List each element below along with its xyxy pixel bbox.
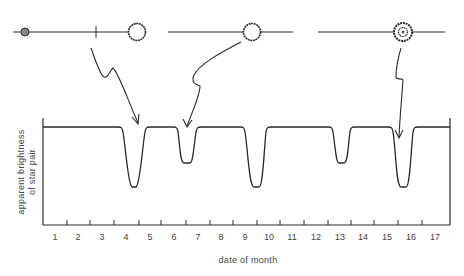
chart-axes [43, 118, 450, 225]
arrowhead-icon [132, 114, 139, 124]
tick-label: 3 [99, 232, 104, 242]
tick-label: 12 [311, 232, 321, 242]
tick-label: 8 [218, 232, 223, 242]
tick-label: 10 [264, 232, 274, 242]
tick-label: 4 [123, 232, 128, 242]
eclipsing-binary-diagram: 1 2 3 4 5 6 7 8 9 10 11 12 13 14 15 16 1… [0, 0, 464, 276]
x-axis-title: date of month [219, 255, 278, 265]
tick-label: 13 [335, 232, 345, 242]
tick-label: 2 [75, 232, 80, 242]
y-axis-title-line2: of star pair [27, 149, 37, 195]
arrow-to-shallow-dip [187, 42, 241, 126]
x-ticks [67, 220, 422, 225]
large-star-icon [244, 24, 261, 41]
large-star-icon [129, 24, 146, 41]
tick-label: 1 [52, 232, 57, 242]
x-tick-labels: 1 2 3 4 5 6 7 8 9 10 11 12 13 14 15 16 1… [52, 232, 440, 242]
tick-label: 5 [147, 232, 152, 242]
orbit-panel-2 [168, 24, 293, 41]
tick-label: 17 [430, 232, 440, 242]
orbit-panel-3 [318, 23, 445, 41]
small-star-icon [21, 28, 29, 36]
tick-label: 16 [406, 232, 416, 242]
light-curve [43, 127, 450, 187]
y-axis-title-line1: apparent brightness [16, 129, 26, 214]
tick-label: 15 [382, 232, 392, 242]
y-axis-title: apparent brightness of star pair [16, 129, 37, 214]
arrows [91, 42, 403, 138]
tick-label: 6 [171, 232, 176, 242]
tick-label: 14 [358, 232, 368, 242]
orbit-panel-1 [13, 24, 146, 41]
arrow-to-deep-dip [396, 48, 403, 137]
arrowhead-icon [183, 119, 192, 127]
tick-label: 7 [195, 232, 200, 242]
tick-label: 9 [242, 232, 247, 242]
tick-label: 11 [287, 232, 296, 242]
arrow-to-plateau [91, 48, 138, 123]
